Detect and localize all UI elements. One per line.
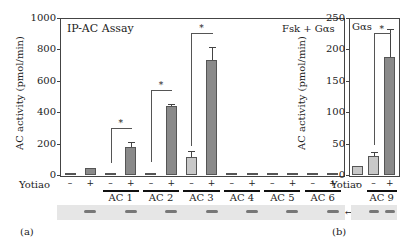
panel_a-yotiao-sign: – <box>226 179 238 188</box>
panel_a-yotiao-sign: – <box>266 179 278 188</box>
panel_a-bar <box>105 173 116 175</box>
panel-a-group-label: AC 2 <box>141 193 181 203</box>
panel-b-blot-band <box>385 210 395 213</box>
panel_a-yotiao-sign: + <box>84 179 96 188</box>
panel-b-title: Gαs <box>352 22 372 32</box>
panel-a-blot-band <box>246 210 258 213</box>
panel_a-yotiao-sign: + <box>206 179 218 188</box>
panel_b-yotiao-sign: – <box>368 179 380 188</box>
panel_a-bar <box>65 173 76 175</box>
panel_a-bar <box>145 173 156 175</box>
panel_a-yotiao-sign: + <box>246 179 258 188</box>
panel_a-error-cap <box>188 151 195 152</box>
panel-a-significance-bracket <box>151 90 172 163</box>
panel_a-bar <box>186 157 197 175</box>
panel-a-title-right: Fsk + Gαs <box>282 24 335 34</box>
panel_a-ytick-label: 400 <box>26 107 56 117</box>
panel_b-yotiao-sign: + <box>384 179 396 188</box>
panel_a-ytick-label: 200 <box>26 139 56 149</box>
panel_b-yotiao-row-label: Yotiao <box>331 180 362 190</box>
panel_a-bar <box>267 173 278 175</box>
panel_b-ytick <box>346 175 350 176</box>
panel_a-ytick <box>57 112 61 113</box>
panel-a-significance-star: * <box>156 81 166 90</box>
panel_a-bar <box>247 173 258 175</box>
panel_b-ytick-label: 250 <box>315 13 345 23</box>
panel_b-ytick <box>346 112 350 113</box>
panel_b-ytick-label: 200 <box>315 44 345 54</box>
panel_b-ytick <box>346 81 350 82</box>
panel_a-yotiao-sign: – <box>145 179 157 188</box>
panel-a-blot-band <box>165 210 177 213</box>
panel-a-significance-star: * <box>116 119 126 128</box>
panel-a-group-label: AC 1 <box>101 193 141 203</box>
panel_a-bar <box>85 168 96 175</box>
panel-a-significance-bracket <box>191 33 212 146</box>
panel-b-label: (b) <box>332 227 346 237</box>
panel_a-ytick <box>57 144 61 145</box>
panel-b-significance-star: * <box>377 25 387 34</box>
panel_a-yotiao-sign: + <box>286 179 298 188</box>
panel_a-yotiao-sign: – <box>64 179 76 188</box>
panel_a-yotiao-sign: – <box>307 179 319 188</box>
panel_a-ytick-label: 600 <box>26 76 56 86</box>
panel_a-yotiao-sign: – <box>185 179 197 188</box>
panel_a-yotiao-sign: – <box>105 179 117 188</box>
panel-a-group-label: AC 3 <box>181 193 221 203</box>
panel_a-ytick <box>57 49 61 50</box>
panel-b-blot-band <box>369 210 379 213</box>
panel_b-y-axis-label: AC activity (pmol/min) <box>296 36 307 150</box>
panel-b-significance-bracket <box>374 33 391 145</box>
panel_b-error-cap <box>371 152 378 153</box>
panel_a-ytick <box>57 175 61 176</box>
panel_b-ytick-label: 150 <box>315 76 345 86</box>
panel-a-blot-band <box>206 210 218 213</box>
panel_b-bar <box>368 156 379 175</box>
panel_b-error-cap <box>387 29 394 30</box>
panel-a-group-label: AC 6 <box>303 193 343 203</box>
panel-a-label: (a) <box>20 227 34 237</box>
panel_a-yotiao-sign: + <box>125 179 137 188</box>
panel_b-ytick <box>346 18 350 19</box>
panel_b-ytick <box>346 49 350 50</box>
panel_a-ytick <box>57 81 61 82</box>
panel-a-significance-star: * <box>197 24 207 33</box>
panel-a-blot-band <box>125 210 137 213</box>
panel-a-blot-band <box>327 210 339 213</box>
panel_b-ytick <box>346 144 350 145</box>
panel-b-group-label: AC 9 <box>364 193 400 203</box>
panel_a-ytick <box>57 18 61 19</box>
panel_b-ytick-label: 100 <box>315 107 345 117</box>
panel-a-group-label: AC 4 <box>222 193 262 203</box>
panel-a-western-blot <box>57 205 345 220</box>
panel_a-bar <box>226 173 237 175</box>
panel_a-ytick-label: 800 <box>26 44 56 54</box>
panel-a-significance-bracket <box>111 128 132 163</box>
panel-a-title-left: IP-AC Assay <box>67 24 134 34</box>
panel-a-group-label: AC 5 <box>262 193 302 203</box>
panel_b-bar <box>352 166 363 175</box>
panel-a-blot-band <box>84 210 96 213</box>
panel-a-blot-band <box>286 210 298 213</box>
panel_a-yotiao-sign: + <box>165 179 177 188</box>
panel_a-bar <box>287 173 298 175</box>
panel_a-ytick-label: 1000 <box>26 13 56 23</box>
panel_b-ytick-label: 50 <box>315 139 345 149</box>
panel_a-y-axis-label: AC activity (pmol/min) <box>14 36 25 150</box>
panel_a-yotiao-row-label: Yotiao <box>19 180 50 190</box>
